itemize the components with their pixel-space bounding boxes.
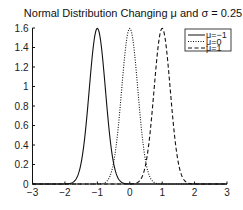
axes (33, 28, 228, 184)
y-axis-ticks: 00.20.40.60.811.21.41.6 (15, 23, 35, 190)
curve-dotted (33, 28, 228, 184)
y-tick-label: 0.2 (15, 159, 29, 170)
x-tick-label: −1 (92, 187, 104, 198)
normal-distribution-chart: Normal Distribution Changing μ and σ = 0… (0, 0, 243, 210)
x-tick-label: 1 (159, 187, 165, 198)
curve-dashed (33, 28, 228, 184)
y-tick-label: 1.2 (15, 62, 29, 73)
x-tick-label: −3 (27, 187, 39, 198)
chart-title: Normal Distribution Changing μ and σ = 0… (24, 7, 242, 19)
y-tick-label: 1.6 (15, 23, 29, 34)
plot-curves (33, 28, 228, 184)
x-tick-label: 0 (127, 187, 133, 198)
y-tick-label: 1 (23, 81, 29, 92)
curve-solid (33, 28, 228, 184)
legend: μ=−1μ=0μ=1 (185, 29, 231, 53)
y-tick-label: 0.6 (15, 120, 29, 131)
y-tick-label: 1.4 (15, 42, 29, 53)
x-tick-label: −2 (59, 187, 71, 198)
x-tick-label: 2 (192, 187, 198, 198)
y-tick-label: 0.8 (15, 101, 29, 112)
x-tick-label: 3 (224, 187, 230, 198)
y-tick-label: 0.4 (15, 140, 29, 151)
legend-label: μ=1 (206, 43, 221, 53)
